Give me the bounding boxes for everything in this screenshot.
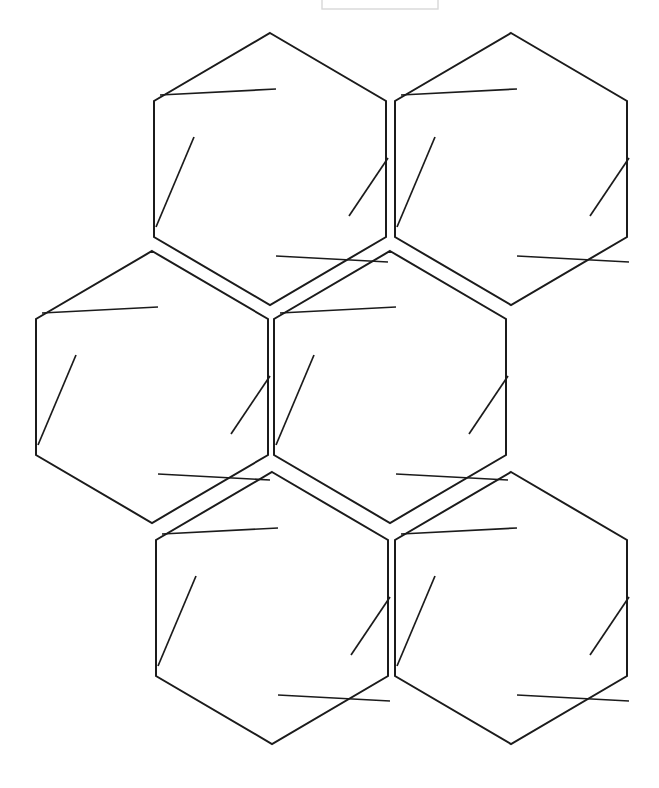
hexagon-group xyxy=(36,33,629,744)
hexagon-top-left-outline[interactable] xyxy=(154,33,386,305)
hexagon-bottom-right-tick-top-left-horizontal xyxy=(401,528,517,534)
worksheet-canvas xyxy=(0,0,659,788)
hexagon-middle-left-outline[interactable] xyxy=(36,251,268,523)
hexagon-bottom-right-tick-left-diagonal xyxy=(397,576,435,666)
hexagon-top-right[interactable] xyxy=(395,33,629,305)
hexagon-bottom-right-tick-right-diagonal xyxy=(590,597,629,655)
hexagon-middle-left-tick-left-diagonal xyxy=(38,355,76,445)
hexagon-middle-center-tick-left-diagonal xyxy=(276,355,314,445)
hexagon-top-left-tick-right-diagonal xyxy=(349,158,388,216)
hexagon-top-left-tick-left-diagonal xyxy=(156,137,194,227)
hexagon-bottom-left-tick-bottom-horizontal xyxy=(278,695,390,701)
hexagon-bottom-left-tick-top-left-horizontal xyxy=(162,528,278,534)
hexagon-bottom-left-outline[interactable] xyxy=(156,472,388,744)
hexagon-top-left-tick-top-left-horizontal xyxy=(160,89,276,95)
header-placeholder-box xyxy=(322,0,438,9)
hexagon-grid-svg xyxy=(0,0,659,788)
hexagon-top-right-tick-top-left-horizontal xyxy=(401,89,517,95)
hexagon-bottom-right-outline[interactable] xyxy=(395,472,627,744)
hexagon-top-right-tick-right-diagonal xyxy=(590,158,629,216)
hexagon-bottom-left-tick-left-diagonal xyxy=(158,576,196,666)
hexagon-bottom-right[interactable] xyxy=(395,472,629,744)
hexagon-middle-center-tick-bottom-horizontal xyxy=(396,474,508,480)
hexagon-bottom-left[interactable] xyxy=(156,472,390,744)
hexagon-middle-center-tick-right-diagonal xyxy=(469,376,508,434)
hexagon-top-right-tick-left-diagonal xyxy=(397,137,435,227)
hexagon-top-right-outline[interactable] xyxy=(395,33,627,305)
hexagon-middle-center[interactable] xyxy=(274,251,508,523)
hexagon-bottom-left-tick-right-diagonal xyxy=(351,597,390,655)
hexagon-middle-center-outline[interactable] xyxy=(274,251,506,523)
hexagon-top-left[interactable] xyxy=(154,33,388,305)
hexagon-bottom-right-tick-bottom-horizontal xyxy=(517,695,629,701)
hexagon-middle-left-tick-bottom-horizontal xyxy=(158,474,270,480)
hexagon-middle-center-tick-top-left-horizontal xyxy=(280,307,396,313)
hexagon-middle-left[interactable] xyxy=(36,251,270,523)
hexagon-top-right-tick-bottom-horizontal xyxy=(517,256,629,262)
hexagon-middle-left-tick-right-diagonal xyxy=(231,376,270,434)
hexagon-middle-left-tick-top-left-horizontal xyxy=(42,307,158,313)
